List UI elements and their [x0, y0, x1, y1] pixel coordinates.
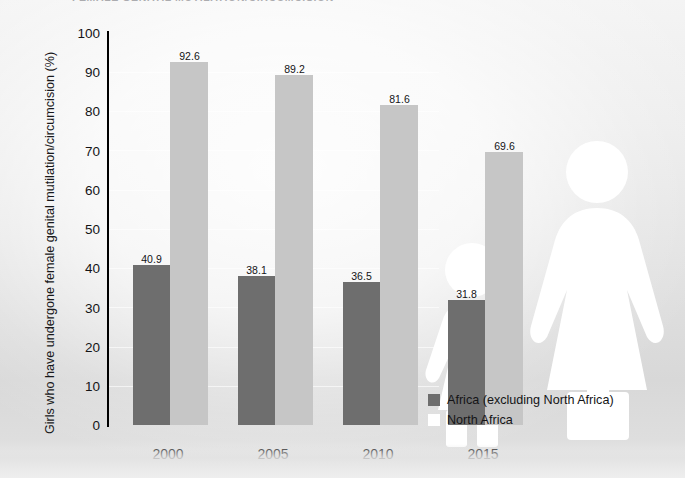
y-tick-0: 0 — [56, 419, 100, 433]
value-2015-north-africa: 69.6 — [480, 141, 529, 152]
y-tick-30: 30 — [56, 302, 100, 316]
legend-swatch-icon-africa-excl-north — [428, 394, 440, 406]
chart-legend: Africa (excluding North Africa) North Af… — [428, 390, 614, 430]
legend-swatch-icon-north-africa — [428, 414, 440, 426]
legend-item-north-africa[interactable]: North Africa — [428, 410, 614, 430]
legend-label-north-africa: North Africa — [447, 413, 513, 427]
bar-2005-africa-excl-north[interactable] — [238, 276, 275, 425]
value-2010-africa-excl-north: 36.5 — [337, 271, 386, 282]
value-2010-north-africa: 81.6 — [375, 94, 424, 105]
value-2000-africa-excl-north: 40.9 — [127, 254, 176, 265]
y-tick-70: 70 — [56, 145, 100, 159]
y-tick-50: 50 — [56, 223, 100, 237]
legend-item-africa-excl-north[interactable]: Africa (excluding North Africa) — [428, 390, 614, 410]
bar-2000-africa-excl-north[interactable] — [133, 265, 170, 425]
bar-2000-north-africa[interactable] — [170, 62, 208, 425]
y-tick-40: 40 — [56, 262, 100, 276]
value-2005-north-africa: 89.2 — [270, 64, 319, 75]
y-tick-80: 80 — [56, 105, 100, 119]
chart-page: FEMALE GENITAL MUTILATION/CIRCUMCISION G… — [0, 0, 685, 478]
value-2000-north-africa: 92.6 — [165, 51, 214, 62]
bottom-band — [0, 444, 685, 478]
bar-2010-north-africa[interactable] — [380, 105, 418, 425]
y-tick-10: 10 — [56, 380, 100, 394]
value-2005-africa-excl-north: 38.1 — [232, 265, 281, 276]
y-tick-100: 100 — [56, 27, 100, 41]
y-tick-90: 90 — [56, 66, 100, 80]
legend-label-africa-excl-north: Africa (excluding North Africa) — [447, 393, 614, 407]
y-tick-60: 60 — [56, 184, 100, 198]
value-2015-africa-excl-north: 31.8 — [442, 289, 491, 300]
bar-2005-north-africa[interactable] — [275, 75, 313, 425]
bar-2010-africa-excl-north[interactable] — [343, 282, 380, 425]
plot-area: 40.9 92.6 38.1 89.2 36.5 81.6 31.8 69.6 — [108, 33, 560, 425]
y-tick-20: 20 — [56, 341, 100, 355]
